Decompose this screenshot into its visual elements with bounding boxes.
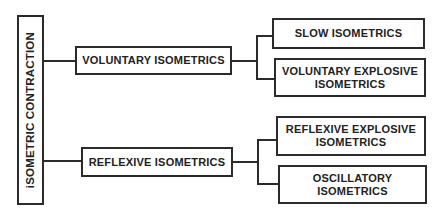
bracket-reflexive	[257, 139, 259, 184]
branch-node-reflexive-isometrics: REFLEXIVE ISOMETRICS	[81, 147, 233, 177]
leaf-node-oscillatory-isometrics: OSCILLATORY ISOMETRICS	[278, 165, 427, 204]
branch-node-label: VOLUNTARY ISOMETRICS	[82, 54, 225, 67]
branch-node-voluntary-isometrics: VOLUNTARY ISOMETRICS	[75, 46, 232, 75]
root-node-isometric-contraction: iSOMETRIC CONTRACTION	[17, 15, 44, 205]
leaf-label-line2: ISOMETRICS	[282, 78, 418, 91]
connector-bracket-voluntary-explosive	[256, 78, 274, 80]
leaf-label-line1: OSCILLATORY	[313, 172, 393, 185]
connector-root-voluntary	[44, 60, 75, 62]
connector-root-reflexive	[44, 160, 81, 162]
leaf-label-line1: REFLEXIVE EXPLOSIVE	[286, 123, 416, 136]
leaf-node-reflexive-explosive-isometrics: REFLEXIVE EXPLOSIVE ISOMETRICS	[276, 116, 426, 156]
leaf-node-voluntary-explosive-isometrics: VOLUNTARY EXPLOSIVE ISOMETRICS	[274, 58, 426, 97]
connector-bracket-slow	[256, 35, 272, 37]
leaf-label-line1: SLOW ISOMETRICS	[295, 27, 403, 40]
branch-node-label: REFLEXIVE ISOMETRICS	[89, 156, 226, 169]
connector-reflexive-bracket	[233, 161, 258, 163]
root-node-label: iSOMETRIC CONTRACTION	[24, 32, 37, 188]
connector-bracket-oscillatory	[257, 183, 278, 185]
leaf-node-slow-isometrics: SLOW ISOMETRICS	[272, 18, 425, 49]
leaf-label-line2: ISOMETRICS	[313, 185, 393, 198]
leaf-label-line1: VOLUNTARY EXPLOSIVE	[282, 65, 418, 78]
connector-bracket-reflexive-explosive	[257, 139, 276, 141]
connector-voluntary-bracket	[232, 60, 257, 62]
leaf-label-line2: ISOMETRICS	[286, 136, 416, 149]
bracket-voluntary	[256, 35, 258, 79]
